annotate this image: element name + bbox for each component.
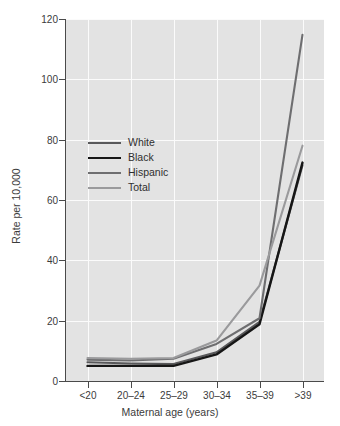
legend-swatch-hispanic — [88, 172, 121, 174]
series-line-white — [88, 165, 303, 364]
x-axis-title: Maternal age (years) — [0, 406, 340, 418]
y-tick-label: 0 — [18, 376, 58, 387]
legend-label-total: Total — [128, 182, 150, 193]
y-tick-mark — [59, 260, 66, 261]
y-tick-label: 60 — [18, 195, 58, 206]
legend-swatch-white — [88, 142, 121, 144]
figure-canvas: 020406080100120 <2020–2425–2930–3435–39>… — [0, 0, 340, 426]
legend-item-hispanic: Hispanic — [88, 165, 208, 180]
y-tick-label: 40 — [18, 255, 58, 266]
legend-label-white: White — [128, 137, 155, 148]
legend-item-total: Total — [88, 180, 208, 195]
legend-swatch-black — [88, 157, 121, 159]
legend-item-black: Black — [88, 150, 208, 165]
legend-label-black: Black — [128, 152, 154, 163]
y-tick-mark — [59, 381, 66, 382]
x-tick-mark — [260, 382, 261, 388]
y-tick-mark — [59, 321, 66, 322]
legend-label-hispanic: Hispanic — [128, 167, 168, 178]
y-tick-mark — [59, 200, 66, 201]
y-tick-label: 80 — [18, 135, 58, 146]
x-tick-mark — [174, 382, 175, 388]
chart-legend: White Black Hispanic Total — [88, 135, 208, 195]
y-tick-mark — [59, 19, 66, 20]
x-tick-mark — [131, 382, 132, 388]
x-tick-mark — [217, 382, 218, 388]
y-tick-label: 100 — [18, 74, 58, 85]
series-lines — [66, 19, 324, 381]
y-tick-label: 120 — [18, 14, 58, 25]
y-tick-mark — [59, 79, 66, 80]
y-tick-label: 20 — [18, 316, 58, 327]
y-axis-title: Rate per 10,000 — [10, 106, 22, 306]
legend-item-white: White — [88, 135, 208, 150]
plot-area — [66, 19, 324, 381]
series-line-hispanic — [88, 35, 303, 361]
legend-swatch-total — [88, 187, 121, 189]
x-tick-mark — [303, 382, 304, 388]
y-tick-mark — [59, 140, 66, 141]
x-tick-label: >39 — [273, 390, 333, 401]
x-axis-line — [65, 381, 324, 382]
x-tick-mark — [88, 382, 89, 388]
